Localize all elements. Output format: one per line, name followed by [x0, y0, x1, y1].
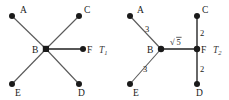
- vertex-label-f-t1: F: [87, 45, 92, 55]
- tree-name-t1-sub: 1: [104, 49, 107, 56]
- graph-svg-canvas: A C B F E D T1 A C B: [0, 0, 229, 100]
- node-c-t2: [194, 13, 200, 19]
- node-d-t1: [76, 81, 82, 87]
- vertex-label-f-t2: F: [201, 45, 206, 55]
- node-a-t1: [9, 13, 15, 19]
- vertex-label-c-t1: C: [84, 5, 90, 15]
- weight-label-b-f-t2: √ 5: [170, 37, 182, 47]
- vertex-label-d-t2: D: [196, 88, 203, 98]
- weight-label-f-d-t2: 2: [200, 64, 204, 74]
- node-b-t1: [43, 46, 49, 52]
- vertex-label-e-t1: E: [15, 88, 21, 98]
- radical-sign-icon: √: [170, 37, 175, 47]
- vertex-label-e-t2: E: [133, 88, 139, 98]
- node-e-t1: [9, 81, 15, 87]
- vertex-label-d-t1: D: [78, 88, 85, 98]
- edge-c-b-t1: [46, 16, 79, 49]
- graph-t2: A C B F E D 3 3 2 2 √ 5 T2: [127, 5, 222, 98]
- figure-container: A C B F E D T1 A C B: [0, 0, 229, 100]
- tree-name-t2: T2: [213, 45, 222, 56]
- vertex-label-a-t1: A: [20, 5, 27, 15]
- tree-name-t2-sub: 2: [218, 49, 222, 56]
- edge-b-d-t1: [46, 49, 79, 84]
- node-f-t1: [80, 46, 86, 52]
- tree-name-t1: T1: [99, 45, 108, 56]
- node-a-t2: [127, 13, 133, 19]
- weight-label-b-e-t2: 3: [143, 64, 147, 74]
- weight-label-a-b-t2: 3: [145, 24, 149, 34]
- node-d-t2: [194, 81, 200, 87]
- edge-a-b-t1: [12, 16, 46, 49]
- graph-t1: A C B F E D T1: [9, 5, 108, 98]
- edge-b-e-t1: [12, 49, 46, 84]
- radical-radicand: 5: [177, 37, 181, 47]
- weight-label-c-f-t2: 2: [200, 28, 204, 38]
- vertex-label-c-t2: C: [202, 5, 208, 15]
- vertex-label-b-t2: B: [147, 45, 153, 55]
- vertex-label-a-t2: A: [137, 5, 144, 15]
- node-e-t2: [127, 81, 133, 87]
- vertex-label-b-t1: B: [32, 45, 38, 55]
- node-f-t2: [194, 46, 200, 52]
- node-b-t2: [158, 46, 164, 52]
- node-c-t1: [76, 13, 82, 19]
